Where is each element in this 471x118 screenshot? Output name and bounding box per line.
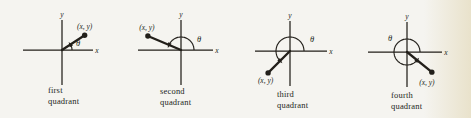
diagram-first-quadrant: yx(x, y)θ (23, 10, 99, 85)
diagram-second-quadrant: yx(x, y)θ (138, 10, 219, 85)
angle-label: θ (310, 34, 314, 44)
terminal-ray (268, 51, 290, 73)
angle-label: θ (388, 33, 392, 43)
terminal-ray (62, 35, 85, 50)
caption-line-1: fourth (391, 90, 422, 101)
caption-line-2: quadrant (48, 96, 79, 107)
caption-fourth-quadrant: fourth quadrant (391, 90, 422, 111)
caption-second-quadrant: second quadrant (160, 86, 191, 107)
caption-third-quadrant: third quadrant (277, 89, 308, 110)
point-label: (x, y) (139, 23, 155, 32)
point-dot (82, 33, 87, 38)
caption-line-2: quadrant (391, 101, 422, 112)
caption-line-1: first (48, 85, 79, 96)
angle-label: θ (197, 34, 201, 44)
caption-line-2: quadrant (277, 100, 308, 111)
angle-label: θ (76, 38, 80, 48)
diagram-third-quadrant: yx(x, y)θ (255, 11, 333, 86)
y-axis-label: y (178, 10, 183, 19)
point-dot (145, 33, 150, 38)
terminal-ray (407, 52, 432, 72)
caption-first-quadrant: first quadrant (48, 85, 79, 106)
point-dot (429, 69, 434, 74)
x-axis-label: x (443, 48, 448, 57)
textbook-figure-quadrant-angles: yx(x, y)θyx(x, y)θyx(x, y)θyx(x, y)θ fir… (0, 0, 471, 118)
caption-line-1: third (277, 89, 308, 100)
y-axis-label: y (404, 12, 409, 21)
point-label: (x, y) (258, 76, 274, 85)
y-axis-label: y (287, 11, 292, 20)
caption-line-1: second (160, 86, 191, 97)
x-axis-label: x (328, 47, 333, 56)
diagram-fourth-quadrant: yx(x, y)θ (368, 12, 448, 87)
y-axis-label: y (59, 10, 64, 19)
point-label: (x, y) (419, 78, 435, 87)
point-label: (x, y) (77, 22, 93, 31)
x-axis-label: x (214, 46, 219, 55)
point-dot (265, 70, 270, 75)
caption-line-2: quadrant (160, 97, 191, 108)
x-axis-label: x (94, 46, 99, 55)
